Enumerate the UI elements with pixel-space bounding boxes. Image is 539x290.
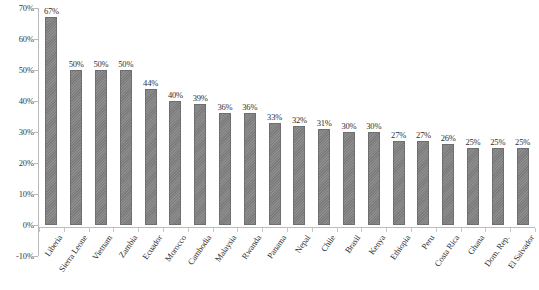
x-axis-category-label: Zambia	[116, 233, 139, 260]
bar	[517, 148, 529, 226]
bar-value-label: 39%	[193, 93, 208, 103]
x-axis-category-label: Ethiopia	[388, 233, 412, 262]
x-axis-category-label: Malaysia	[213, 233, 239, 264]
bar	[269, 123, 281, 225]
x-axis-category-label: El Salvador	[505, 233, 535, 271]
bar-value-label: 27%	[416, 130, 431, 140]
y-axis-tick-label: 70%	[19, 3, 34, 13]
x-axis-category-label: Brasil	[343, 233, 363, 255]
bar-value-label: 31%	[317, 118, 332, 128]
bar	[194, 104, 206, 225]
x-axis-tick	[485, 228, 486, 232]
bar-value-label: 36%	[218, 102, 233, 112]
x-axis-category-label: Rwanda	[239, 233, 263, 261]
bar-value-label: 30%	[342, 121, 357, 131]
x-axis-category-label: Peru	[420, 233, 437, 251]
x-axis-category-label: Sierra Leone	[57, 233, 90, 274]
x-axis-tick	[188, 228, 189, 232]
bar	[70, 70, 82, 225]
bar-value-label: 25%	[515, 137, 530, 147]
bar-value-label: 32%	[292, 115, 307, 125]
y-axis-tick	[34, 39, 38, 40]
x-axis-category-label: Vietnam	[90, 233, 114, 262]
x-axis-category-label: Chile	[319, 233, 337, 253]
bar	[393, 141, 405, 225]
y-axis-tick	[34, 101, 38, 102]
x-axis-category-label: Ecuador	[140, 233, 164, 261]
bar-value-label: 25%	[466, 137, 481, 147]
x-axis-tick	[411, 228, 412, 232]
x-axis-tick	[535, 228, 536, 232]
x-axis-tick	[436, 228, 437, 232]
y-axis-tick-label: -10%	[16, 251, 34, 261]
x-axis-category-label: Morocco	[163, 233, 188, 263]
bar-value-label: 26%	[441, 133, 456, 143]
bar	[368, 132, 380, 225]
bar-value-label: 50%	[69, 59, 84, 69]
x-axis-tick	[113, 228, 114, 232]
x-axis-tick	[361, 228, 362, 232]
x-axis-tick	[312, 228, 313, 232]
y-axis-tick-label: 0%	[23, 220, 34, 230]
x-axis-tick	[39, 228, 40, 232]
y-axis-tick	[34, 194, 38, 195]
bar-chart: 70%60%50%40%30%20%10%0%-10% 67%50%50%50%…	[0, 0, 539, 290]
y-axis-tick-label: 20%	[19, 158, 34, 168]
bar-value-label: 50%	[118, 59, 133, 69]
x-axis-tick	[262, 228, 263, 232]
x-axis-category-label: Nepal	[293, 233, 313, 255]
x-axis-tick	[461, 228, 462, 232]
bar	[145, 89, 157, 225]
x-axis-tick	[287, 228, 288, 232]
x-axis-tick	[163, 228, 164, 232]
bar-value-label: 44%	[143, 78, 158, 88]
bar-value-label: 25%	[490, 137, 505, 147]
y-axis: 70%60%50%40%30%20%10%0%-10%	[0, 0, 37, 290]
x-axis-tick	[510, 228, 511, 232]
bar	[318, 129, 330, 225]
x-axis-tick	[138, 228, 139, 232]
x-axis-category-label: Panama	[265, 233, 288, 260]
x-axis-category-label: Costa Rica	[432, 233, 461, 268]
y-axis-tick-label: 30%	[19, 127, 34, 137]
bar	[293, 126, 305, 225]
x-axis-category-label: Ghana	[466, 233, 487, 257]
x-axis-tick	[386, 228, 387, 232]
bar	[417, 141, 429, 225]
bar-value-label: 36%	[242, 102, 257, 112]
bar-value-label: 27%	[391, 130, 406, 140]
bar	[492, 148, 504, 226]
bar	[45, 17, 57, 225]
y-axis-tick-label: 60%	[19, 34, 34, 44]
x-axis-category-label: Liberia	[43, 233, 65, 258]
x-axis-category-label: Dom. Rep.	[482, 233, 511, 268]
y-axis-tick	[34, 132, 38, 133]
bar-value-label: 50%	[94, 59, 109, 69]
bar-value-label: 33%	[267, 112, 282, 122]
x-axis-tick	[89, 228, 90, 232]
y-axis-tick	[34, 8, 38, 9]
bar	[467, 148, 479, 226]
plot-area: 67%50%50%50%44%40%39%36%36%33%32%31%30%3…	[39, 8, 535, 227]
bar	[219, 113, 231, 225]
x-axis-tick	[237, 228, 238, 232]
x-axis-category-label: Cambodia	[186, 233, 214, 267]
bar-value-label: 67%	[44, 6, 59, 16]
y-axis-tick-label: 50%	[19, 65, 34, 75]
bar	[120, 70, 132, 225]
y-axis-tick-label: 40%	[19, 96, 34, 106]
bar-value-label: 40%	[168, 90, 183, 100]
bar	[442, 144, 454, 225]
y-axis-tick	[34, 70, 38, 71]
bar-value-label: 30%	[366, 121, 381, 131]
bar	[169, 101, 181, 225]
y-axis-tick-label: 10%	[19, 189, 34, 199]
bar	[95, 70, 107, 225]
bar	[244, 113, 256, 225]
y-axis-tick	[34, 256, 38, 257]
x-axis-tick	[64, 228, 65, 232]
x-axis-category-label: Kenya	[366, 233, 387, 257]
y-axis-tick	[34, 163, 38, 164]
x-axis-tick	[213, 228, 214, 232]
y-axis-tick	[34, 225, 38, 226]
